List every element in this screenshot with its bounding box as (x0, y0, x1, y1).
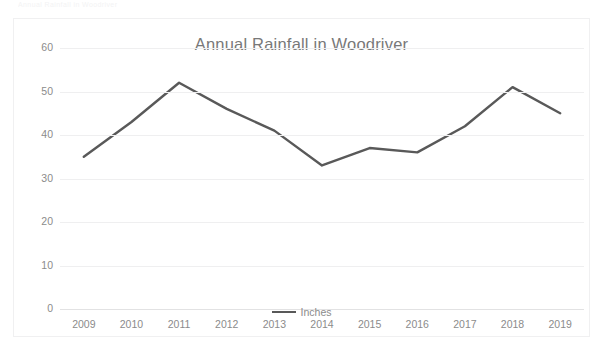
y-axis-tick-label: 20 (41, 215, 53, 227)
gridline (60, 92, 584, 93)
x-axis-tick-label: 2014 (310, 318, 333, 330)
x-axis-tick-label: 2009 (72, 318, 95, 330)
chart-legend: Inches (14, 306, 589, 318)
x-axis-tick-label: 2017 (453, 318, 476, 330)
y-axis-tick-label: 10 (41, 259, 53, 271)
y-axis-tick-label: 50 (41, 85, 53, 97)
x-axis-tick-label: 2011 (168, 318, 191, 330)
x-axis-tick-label: 2019 (548, 318, 571, 330)
legend-line-swatch (272, 311, 296, 313)
plot-area: 0102030405060 (60, 48, 584, 309)
x-axis-tick-label: 2015 (358, 318, 381, 330)
y-axis-tick-label: 40 (41, 128, 53, 140)
gridline (60, 266, 584, 267)
gridline (60, 179, 584, 180)
x-axis-tick-label: 2010 (120, 318, 143, 330)
gridline (60, 135, 584, 136)
x-axis-tick-label: 2013 (263, 318, 286, 330)
legend-label-inches: Inches (301, 306, 332, 318)
series-line-inches (84, 83, 560, 166)
ghost-header-text: Annual Rainfall in Woodriver (18, 1, 238, 9)
chart-container: Annual Rainfall in Woodriver 01020304050… (13, 18, 590, 337)
x-axis-tick-label: 2018 (501, 318, 524, 330)
x-axis-labels: 2009201020112012201320142015201620172018… (60, 318, 584, 334)
gridline (60, 222, 584, 223)
y-axis-tick-label: 30 (41, 172, 53, 184)
gridline (60, 48, 584, 49)
x-axis-tick-label: 2012 (215, 318, 238, 330)
x-axis-tick-label: 2016 (406, 318, 429, 330)
y-axis-tick-label: 60 (41, 41, 53, 53)
